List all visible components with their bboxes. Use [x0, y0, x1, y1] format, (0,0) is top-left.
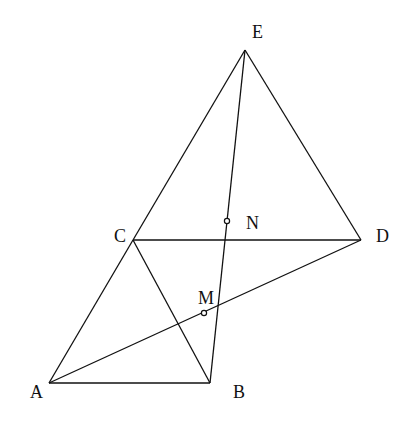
point-label-A: A — [30, 382, 43, 402]
point-marker-N — [224, 218, 229, 223]
segment-CB — [133, 240, 210, 383]
point-label-N: N — [246, 213, 259, 233]
point-label-C: C — [114, 226, 126, 246]
segment-AC — [49, 240, 133, 383]
point-label-E: E — [252, 22, 263, 42]
point-label-M: M — [198, 288, 214, 308]
point-label-D: D — [376, 226, 389, 246]
diagram-svg: ECDABNM — [0, 0, 406, 427]
geometry-diagram: ECDABNM — [0, 0, 406, 427]
point-marker-M — [201, 310, 206, 315]
segment-ED — [245, 50, 361, 240]
point-label-B: B — [233, 382, 245, 402]
